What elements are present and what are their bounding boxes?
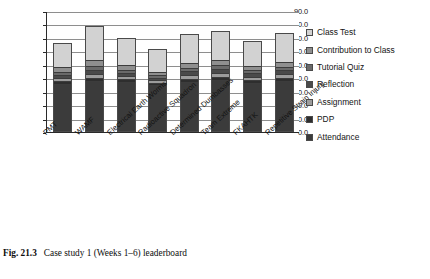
plot-area xyxy=(46,12,299,133)
bar-segment[interactable] xyxy=(181,35,198,64)
legend-item[interactable]: Attendance xyxy=(306,128,428,145)
bar-segment[interactable] xyxy=(244,42,261,67)
legend-swatch-icon xyxy=(306,134,313,141)
bar-segment[interactable] xyxy=(86,27,103,61)
caption-text: Case study 1 (Weeks 1–6) leaderboard xyxy=(44,248,187,258)
legend-label: Attendance xyxy=(317,133,359,142)
legend-item[interactable]: Contribution to Class xyxy=(306,41,428,58)
legend-swatch-icon xyxy=(306,99,313,106)
legend-label: Reflection xyxy=(317,80,354,89)
bar-segment[interactable] xyxy=(54,44,71,68)
chart-area: 0.010.020.030.040.050.060.070.080.090.0 xyxy=(18,6,308,139)
bar-group[interactable] xyxy=(53,12,72,132)
legend-swatch-icon xyxy=(306,29,313,36)
legend-label: PDP xyxy=(317,115,334,124)
figure-number: Fig. 21.3 xyxy=(3,248,37,258)
legend-label: Class Test xyxy=(317,28,355,37)
figure-21-3: 0.010.020.030.040.050.060.070.080.090.0 … xyxy=(0,0,430,279)
legend-item[interactable]: PDP xyxy=(306,111,428,128)
legend-label: Contribution to Class xyxy=(317,46,395,55)
legend-item[interactable]: Reflection xyxy=(306,76,428,93)
chart-legend: Class TestContribution to ClassTutorial … xyxy=(306,24,428,146)
bar-segment[interactable] xyxy=(276,34,293,63)
legend-label: Tutorial Quiz xyxy=(317,63,364,72)
bar-segment[interactable] xyxy=(212,32,229,60)
bar-group[interactable] xyxy=(85,12,104,132)
x-axis-labels: PMTWAMFElectrical Earth WormsRadioactive… xyxy=(28,128,281,208)
figure-caption: Fig. 21.3Case study 1 (Weeks 1–6) leader… xyxy=(3,248,403,259)
legend-swatch-icon xyxy=(306,47,313,54)
stacked-bar[interactable] xyxy=(53,43,72,132)
legend-swatch-icon xyxy=(306,116,313,123)
bar-segment[interactable] xyxy=(149,50,166,73)
legend-swatch-icon xyxy=(306,81,313,88)
legend-swatch-icon xyxy=(306,64,313,71)
legend-item[interactable]: Assignment xyxy=(306,94,428,111)
bar-segment[interactable] xyxy=(118,39,135,66)
legend-item[interactable]: Tutorial Quiz xyxy=(306,59,428,76)
legend-label: Assignment xyxy=(317,98,361,107)
legend-item[interactable]: Class Test xyxy=(306,24,428,41)
